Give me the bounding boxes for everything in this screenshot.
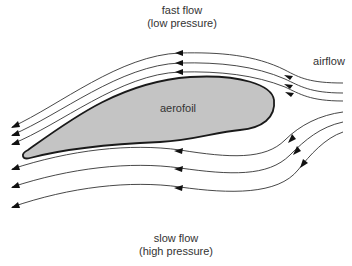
arrow-head: [174, 185, 183, 191]
arrow-head: [11, 139, 20, 145]
aerofoil-label: aerofoil: [160, 102, 196, 114]
airflow-label: airflow: [313, 55, 345, 67]
arrow-head: [11, 130, 20, 136]
low-pressure-label: (low pressure): [147, 17, 217, 29]
arrow-head: [174, 166, 183, 172]
fast-flow-label: fast flow: [162, 4, 202, 16]
aerofoil-diagram: fast flow (low pressure) airflow aerofoi…: [0, 0, 352, 266]
aerofoil-shape: [23, 77, 274, 159]
arrow-head: [175, 50, 183, 56]
arrow-head: [288, 134, 296, 143]
arrow-head: [285, 92, 294, 97]
arrow-head: [175, 60, 183, 66]
high-pressure-label: (high pressure): [139, 245, 213, 257]
arrow-head: [174, 148, 183, 154]
arrow-head: [11, 164, 20, 170]
arrow-head: [300, 159, 308, 168]
slow-flow-label: slow flow: [154, 232, 199, 244]
arrow-head: [11, 182, 20, 188]
arrow-head: [11, 202, 20, 208]
arrow-head: [175, 69, 183, 75]
arrow-head: [11, 121, 20, 128]
